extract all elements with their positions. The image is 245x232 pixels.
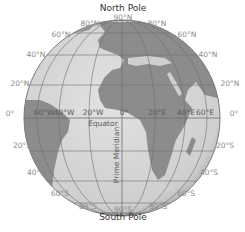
lat-60s-right-label: 60°S bbox=[177, 189, 195, 198]
lat-80s-right-label: 80°S bbox=[149, 202, 167, 211]
equator-label: Equator bbox=[88, 119, 118, 128]
lat-60n-right-label: 60°N bbox=[178, 30, 197, 39]
lon-60w-label: 60°W bbox=[34, 108, 55, 117]
lat-90n-label: 90°N bbox=[114, 13, 133, 22]
lat-20s-left-label: 20°S bbox=[13, 141, 31, 150]
lat-60n-left-label: 60°N bbox=[52, 30, 71, 39]
graticule bbox=[20, 20, 224, 216]
lat-40n-left-label: 40°N bbox=[27, 50, 46, 59]
lat-40s-right-label: 40°S bbox=[200, 168, 218, 177]
lat-40n-right-label: 40°N bbox=[199, 50, 218, 59]
lat-20n-right-label: 20°N bbox=[221, 79, 240, 88]
north-pole-label: North Pole bbox=[100, 3, 147, 13]
lat-80s-left-label: 80°S bbox=[79, 202, 97, 211]
lat-0-left-label: 0° bbox=[6, 109, 15, 118]
prime-meridian-label: Prime Meridian bbox=[112, 127, 121, 184]
lat-40s-left-label: 40°S bbox=[27, 168, 45, 177]
lon-20e-label: 20°E bbox=[148, 108, 166, 117]
lat-60s-left-label: 60°S bbox=[51, 189, 69, 198]
globe-diagram: North Pole South Pole 90°N 80°N 80°N 60°… bbox=[0, 0, 245, 232]
lat-80n-left-label: 80°N bbox=[81, 19, 100, 28]
lat-80n-right-label: 80°N bbox=[148, 19, 167, 28]
lat-20n-left-label: 20°N bbox=[11, 79, 30, 88]
lon-60e-label: 60°E bbox=[196, 108, 214, 117]
lon-20w-label: 20°W bbox=[83, 108, 104, 117]
lat-20s-right-label: 20°S bbox=[216, 141, 234, 150]
lon-0-label: 0° bbox=[120, 108, 129, 117]
lat-0-right-label: 0° bbox=[230, 109, 239, 118]
lat-90s-label: 90°S bbox=[114, 205, 132, 214]
lon-40e-label: 40°E bbox=[177, 108, 195, 117]
lon-40w-label: 40°W bbox=[54, 108, 75, 117]
